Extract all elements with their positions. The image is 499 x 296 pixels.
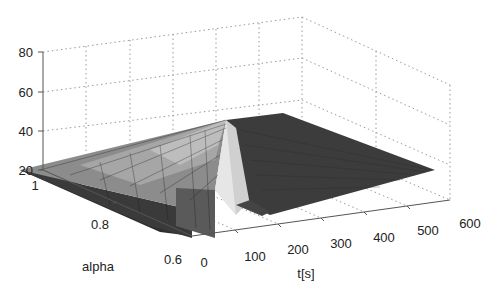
z-tick-80: 80 — [19, 45, 33, 60]
surface-plot: 80 60 40 20 1 0.8 0.6 0 100 200 300 400 … — [0, 0, 499, 296]
t-axis-label: t[s] — [297, 266, 314, 281]
t-tick-0: 0 — [200, 255, 207, 270]
t-tick-600: 600 — [459, 216, 481, 231]
z-tick-60: 60 — [19, 85, 33, 100]
t-tick-500: 500 — [417, 223, 439, 238]
t-tick-100: 100 — [244, 249, 266, 264]
alpha-tick-0.8: 0.8 — [91, 217, 109, 232]
z-tick-20: 20 — [19, 163, 33, 178]
t-tick-300: 300 — [330, 236, 352, 251]
t-tick-400: 400 — [373, 230, 395, 245]
t-tick-labels: 0 100 200 300 400 500 600 — [200, 216, 480, 270]
t-tick-200: 200 — [287, 242, 309, 257]
z-tick-40: 40 — [19, 124, 33, 139]
z-tick-labels: 80 60 40 20 — [19, 45, 33, 178]
surface — [20, 113, 435, 238]
alpha-tick-1: 1 — [31, 178, 38, 193]
alpha-axis-label: alpha — [82, 259, 115, 274]
alpha-tick-0.6: 0.6 — [164, 252, 182, 267]
